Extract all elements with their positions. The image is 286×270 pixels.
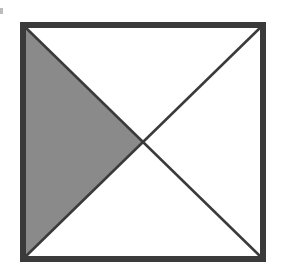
diagram-canvas bbox=[0, 0, 286, 270]
shaded-left-triangle bbox=[23, 25, 143, 259]
speck-mark bbox=[0, 8, 3, 14]
